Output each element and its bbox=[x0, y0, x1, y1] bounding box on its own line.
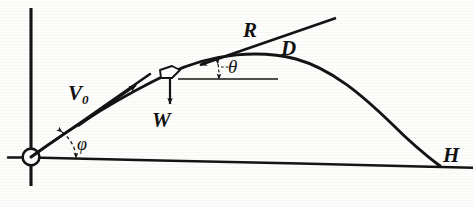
theta-angle-arc bbox=[218, 64, 219, 79]
label-impact-point: H bbox=[443, 145, 459, 166]
projectile-group bbox=[160, 66, 180, 78]
label-initial-velocity: V0 bbox=[68, 83, 89, 106]
projectile-body-icon bbox=[160, 66, 180, 78]
projectile-diagram: V0 W R D θ φ H bbox=[0, 0, 473, 207]
label-angle-phi: φ bbox=[77, 135, 87, 153]
label-weight: W bbox=[152, 110, 171, 131]
phi-angle-group bbox=[62, 132, 76, 158]
impact-point-marker bbox=[438, 164, 441, 167]
impact-group bbox=[438, 164, 441, 167]
r-arrow bbox=[200, 18, 336, 65]
label-initial-velocity-text: V bbox=[68, 81, 82, 105]
resistance-vector-group bbox=[200, 18, 336, 65]
label-resistance: R bbox=[243, 20, 257, 41]
horizontal-ground-axis bbox=[8, 158, 473, 168]
label-angle-theta: θ bbox=[228, 57, 237, 76]
phi-angle-arc bbox=[62, 132, 76, 158]
label-trajectory: D bbox=[281, 38, 296, 59]
label-initial-velocity-subscript: 0 bbox=[82, 92, 89, 107]
